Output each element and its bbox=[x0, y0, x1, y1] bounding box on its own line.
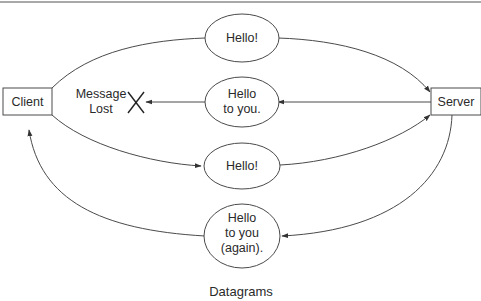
client-node: Client bbox=[3, 88, 52, 115]
arc-msg4-to-client bbox=[29, 130, 205, 236]
datagram-diagram: Client Server Hello! Hello to you. Hello… bbox=[0, 0, 481, 301]
message-bubble-4: Hello to you (again). bbox=[204, 204, 280, 268]
svg-text:Lost: Lost bbox=[89, 102, 113, 116]
svg-text:Message: Message bbox=[76, 87, 127, 101]
svg-text:Hello!: Hello! bbox=[226, 31, 258, 45]
arc-client-to-msg3 bbox=[52, 115, 201, 166]
lost-x-icon bbox=[128, 92, 144, 113]
svg-text:to you.: to you. bbox=[223, 102, 261, 116]
arc-msg1-to-server bbox=[278, 38, 430, 92]
svg-text:Hello: Hello bbox=[228, 87, 257, 101]
message-bubble-1: Hello! bbox=[205, 14, 279, 62]
server-node: Server bbox=[431, 88, 481, 115]
message-lost-annotation: Message Lost bbox=[76, 87, 144, 116]
svg-text:Hello: Hello bbox=[228, 211, 257, 225]
svg-text:Hello!: Hello! bbox=[226, 159, 258, 173]
arc-server-to-msg4 bbox=[282, 115, 452, 236]
svg-text:to you: to you bbox=[225, 226, 259, 240]
server-label: Server bbox=[438, 95, 475, 109]
message-bubble-2: Hello to you. bbox=[205, 77, 279, 127]
message-bubble-3: Hello! bbox=[204, 143, 280, 189]
diagram-caption: Datagrams bbox=[209, 284, 273, 299]
arc-client-to-msg1 bbox=[52, 38, 205, 88]
client-label: Client bbox=[12, 95, 44, 109]
svg-text:(again).: (again). bbox=[221, 241, 263, 255]
arc-msg3-to-server bbox=[280, 115, 430, 165]
